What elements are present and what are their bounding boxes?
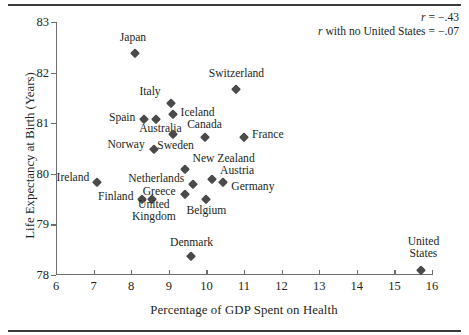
data-point-label: Norway [107, 139, 144, 151]
plot-area: 787980818283 678910111213141516 JapanSwi… [56, 22, 432, 275]
x-tick-mark [394, 270, 395, 275]
data-point-label: Netherlands [128, 173, 184, 185]
x-tick-mark [131, 270, 132, 275]
x-tick-label: 11 [238, 279, 250, 294]
data-point-label: Iceland [181, 107, 215, 119]
x-tick-mark [244, 270, 245, 275]
x-tick-mark [56, 270, 57, 275]
data-point-label: Finland [98, 191, 133, 203]
x-tick-label: 16 [426, 279, 439, 294]
data-point-label: New Zealand [193, 153, 255, 165]
y-tick-label: 80 [37, 166, 50, 181]
data-point-label: Austria [220, 165, 254, 177]
data-point-label: France [252, 130, 284, 142]
data-point-label: Italy [139, 86, 160, 98]
x-tick-mark [206, 270, 207, 275]
y-tick-label: 83 [37, 15, 50, 30]
data-point-marker [232, 85, 241, 94]
data-point-marker [130, 49, 139, 58]
data-point-marker [180, 189, 189, 198]
x-tick-mark [432, 270, 433, 275]
data-point-label: Denmark [170, 237, 213, 249]
data-point-label: Ireland [57, 173, 90, 185]
x-tick-mark [169, 270, 170, 275]
y-tick-mark [51, 224, 56, 225]
data-point-label: UnitedKingdom [132, 199, 176, 223]
data-point-marker [166, 98, 175, 107]
x-tick-label: 7 [90, 279, 96, 294]
y-tick-mark [51, 174, 56, 175]
y-tick-mark [51, 275, 56, 276]
x-tick-mark [282, 270, 283, 275]
y-tick-mark [51, 73, 56, 74]
x-tick-mark [357, 270, 358, 275]
data-point-label: Spain [109, 112, 135, 124]
data-point-label: Canada [187, 120, 222, 132]
data-point-label: Switzerland [209, 69, 264, 81]
data-point-marker [202, 194, 211, 203]
data-point-label: UnitedStates [408, 236, 440, 260]
y-axis-title: Life Expectancy at Birth (Years) [23, 31, 38, 281]
y-tick-label: 78 [37, 268, 50, 283]
x-tick-label: 8 [128, 279, 134, 294]
data-point-label: Germany [231, 182, 274, 194]
data-point-label: Greece [143, 186, 176, 198]
y-axis-line [56, 22, 57, 275]
data-point-marker [93, 178, 102, 187]
bottom-rule [8, 330, 461, 332]
x-tick-mark [94, 270, 95, 275]
data-point-label: Belgium [186, 205, 226, 217]
scatter-plot-figure: r = −.43 r with no United States = −.07 … [0, 0, 469, 335]
data-point-marker [207, 174, 216, 183]
y-tick-label: 81 [37, 116, 50, 131]
data-point-marker [186, 251, 195, 260]
x-tick-label: 12 [275, 279, 288, 294]
data-point-label: Sweden [157, 141, 194, 153]
y-tick-label: 82 [37, 65, 50, 80]
x-tick-label: 9 [166, 279, 172, 294]
x-tick-label: 10 [200, 279, 213, 294]
x-tick-label: 14 [351, 279, 364, 294]
x-tick-label: 6 [53, 279, 59, 294]
data-point-marker [189, 179, 198, 188]
data-point-marker [200, 133, 209, 142]
y-tick-label: 79 [37, 217, 50, 232]
y-tick-mark [51, 22, 56, 23]
data-point-marker [168, 109, 177, 118]
x-tick-label: 13 [313, 279, 326, 294]
top-rule [8, 4, 461, 6]
data-point-label: Japan [120, 33, 146, 45]
data-point-marker [239, 133, 248, 142]
y-tick-mark [51, 123, 56, 124]
x-tick-label: 15 [388, 279, 401, 294]
x-tick-mark [319, 270, 320, 275]
data-point-marker [219, 178, 228, 187]
x-axis-title: Percentage of GDP Spent on Health [56, 303, 432, 318]
